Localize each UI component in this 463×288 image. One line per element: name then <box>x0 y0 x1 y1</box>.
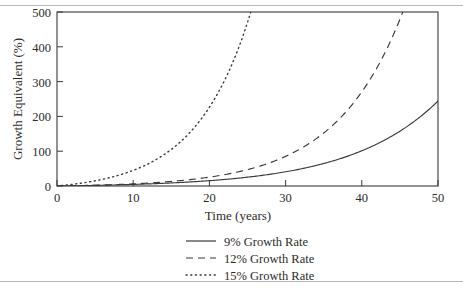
legend-item-9-percent: 9% Growth Rate <box>186 235 308 249</box>
y-tick-label: 500 <box>32 6 51 20</box>
y-tick-label: 0 <box>45 180 51 194</box>
y-axis-ticks <box>57 12 63 186</box>
x-axis-title: Time (years) <box>205 208 271 223</box>
x-tick-label: 30 <box>279 191 292 205</box>
y-tick-label: 200 <box>32 110 51 124</box>
plot-frame <box>57 12 438 186</box>
x-tick-label: 20 <box>203 191 216 205</box>
series-line-12-percent <box>57 0 419 186</box>
legend-item-12-percent: 12% Growth Rate <box>186 252 315 266</box>
chart-figure: 500 400 300 200 100 0 0 10 20 30 40 50 T… <box>0 0 463 288</box>
x-tick-label: 0 <box>54 191 60 205</box>
legend-label: 15% Growth Rate <box>224 269 315 283</box>
growth-equivalent-line-chart: 500 400 300 200 100 0 0 10 20 30 40 50 T… <box>0 0 463 288</box>
legend-label: 12% Growth Rate <box>224 252 315 266</box>
x-tick-label: 40 <box>356 191 369 205</box>
legend-label: 9% Growth Rate <box>224 235 308 249</box>
y-tick-label: 300 <box>32 76 51 90</box>
y-tick-labels: 500 400 300 200 100 0 <box>32 6 51 194</box>
series-line-9-percent <box>57 101 438 186</box>
y-axis-title: Growth Equivalent (%) <box>10 38 25 160</box>
x-tick-labels: 0 10 20 30 40 50 <box>54 191 444 205</box>
legend-item-15-percent: 15% Growth Rate <box>186 269 315 283</box>
x-tick-label: 50 <box>432 191 445 205</box>
x-tick-label: 10 <box>127 191 140 205</box>
y-tick-label: 400 <box>32 41 51 55</box>
chart-legend: 9% Growth Rate 12% Growth Rate 15% Growt… <box>186 235 315 283</box>
series-line-15-percent <box>57 0 264 186</box>
series-layer <box>57 0 438 186</box>
y-tick-label: 100 <box>32 145 51 159</box>
